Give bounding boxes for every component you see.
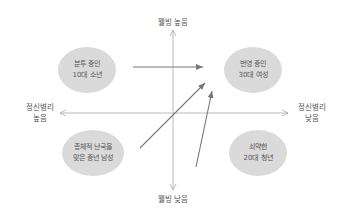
axis-label-left-line2: 높음 <box>26 113 54 124</box>
quadrant-bubble-bottom-left: 총체적 난국을 맞은 중년 남성 <box>62 130 124 176</box>
bubble-bottom-left-line1: 총체적 난국을 <box>74 142 112 153</box>
bubble-top-left-line2: 10대 소년 <box>72 70 101 81</box>
axis-label-psychopathology-high: 정신병리 높음 <box>26 102 54 124</box>
bubble-top-right-line1: 번영 중인 <box>240 59 266 70</box>
axis-label-psychopathology-low: 정신병리 낮음 <box>298 102 326 124</box>
arrow-bottom-left-to-top-right <box>140 83 205 148</box>
bubble-bottom-right-line1: 쇠약한 <box>249 142 267 153</box>
arrow-bottom-right-to-top-right <box>196 91 212 167</box>
axis-label-right-line2: 낮음 <box>298 113 326 124</box>
axis-label-wellbeing-low: 웰빙 낮음 <box>158 194 188 205</box>
quadrant-bubble-bottom-right: 쇠약한 20대 청년 <box>229 130 287 176</box>
axis-label-bottom-text: 웰빙 낮음 <box>158 195 188 204</box>
axis-label-wellbeing-high: 웰빙 높음 <box>158 17 188 28</box>
axis-label-right-line1: 정신병리 <box>298 102 326 113</box>
bubble-top-right-line2: 30대 여성 <box>238 70 267 81</box>
axis-label-top-text: 웰빙 높음 <box>158 18 188 27</box>
bubble-top-left-line1: 분투 중인 <box>74 59 100 70</box>
axis-label-left-line1: 정신병리 <box>26 102 54 113</box>
bubble-bottom-right-line2: 20대 청년 <box>243 153 272 164</box>
quadrant-bubble-top-left: 분투 중인 10대 소년 <box>58 47 116 93</box>
quadrant-bubble-top-right: 번영 중인 30대 여성 <box>224 47 282 93</box>
bubble-bottom-left-line2: 맞은 중년 남성 <box>73 153 113 164</box>
